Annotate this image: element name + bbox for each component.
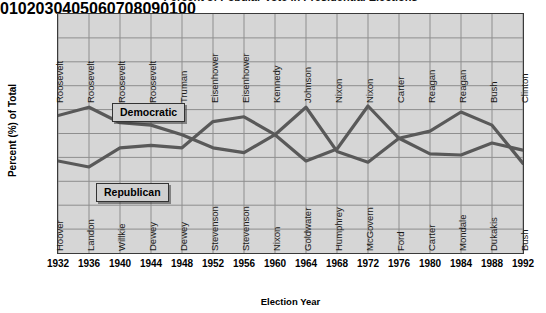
loser-label-15: Bush — [520, 229, 530, 251]
winner-label-14: Bush — [489, 81, 499, 103]
plot-area — [57, 13, 524, 254]
winner-label-5: Eisenhower — [210, 53, 220, 103]
loser-label-14: Dukakis — [489, 217, 499, 251]
winner-label-8: Johnson — [303, 67, 313, 103]
x-tick-1940: 1940 — [103, 259, 137, 269]
winner-label-9: Nixon — [334, 79, 344, 103]
loser-label-12: Carter — [427, 225, 437, 251]
x-tick-1964: 1964 — [289, 259, 323, 269]
winner-label-11: Carter — [396, 77, 406, 103]
winner-label-1: Roosevelt — [86, 61, 96, 103]
x-tick-1932: 1932 — [41, 259, 75, 269]
loser-label-3: Dewey — [148, 222, 158, 251]
x-tick-1952: 1952 — [196, 259, 230, 269]
loser-label-0: Hoover — [55, 220, 65, 251]
x-tick-1984: 1984 — [444, 259, 478, 269]
x-tick-1960: 1960 — [258, 259, 292, 269]
x-tick-1972: 1972 — [351, 259, 385, 269]
winner-label-7: Kennedy — [272, 65, 282, 103]
loser-label-8: Goldwater — [303, 208, 313, 251]
legend-republican: Republican — [96, 183, 169, 202]
x-tick-1936: 1936 — [72, 259, 106, 269]
winner-label-0: Roosevelt — [55, 61, 65, 103]
winner-label-15: Clinton — [520, 73, 530, 103]
winner-label-6: Eisenhower — [241, 53, 251, 103]
x-tick-1992: 1992 — [506, 259, 540, 269]
winner-label-10: Nixon — [365, 79, 375, 103]
loser-label-4: Dewey — [179, 222, 189, 251]
y-tick-0: 0 — [0, 0, 9, 17]
chart-root: Percent of Popular Vote in Presidential … — [0, 0, 546, 313]
loser-label-13: Mondale — [458, 215, 468, 251]
x-tick-1948: 1948 — [165, 259, 199, 269]
loser-label-5: Stevenson — [210, 206, 220, 251]
y-tick-20: 20 — [27, 0, 45, 17]
loser-label-9: Humphrey — [334, 207, 344, 251]
winner-label-12: Reagan — [427, 70, 437, 103]
loser-label-2: Willkie — [117, 224, 127, 251]
plot-svg — [58, 14, 523, 253]
winner-label-3: Roosevelt — [148, 61, 158, 103]
loser-label-10: McGovern — [365, 207, 375, 251]
winner-label-13: Reagan — [458, 70, 468, 103]
loser-label-7: Nixon — [272, 227, 282, 251]
loser-label-1: Landon — [86, 219, 96, 251]
x-tick-1968: 1968 — [320, 259, 354, 269]
x-tick-1976: 1976 — [382, 259, 416, 269]
x-tick-1980: 1980 — [413, 259, 447, 269]
y-tick-10: 10 — [9, 0, 27, 17]
winner-label-2: Roosevelt — [117, 61, 127, 103]
legend-democratic: Democratic — [112, 103, 185, 122]
loser-label-6: Stevenson — [241, 206, 251, 251]
x-tick-1988: 1988 — [475, 259, 509, 269]
x-tick-1944: 1944 — [134, 259, 168, 269]
winner-label-4: Truman — [179, 71, 189, 103]
loser-label-11: Ford — [396, 231, 406, 251]
x-tick-1956: 1956 — [227, 259, 261, 269]
